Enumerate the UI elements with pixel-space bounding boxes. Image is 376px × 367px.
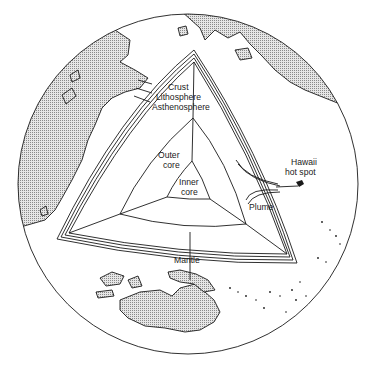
label-plume: Plume [249,202,274,212]
island [235,48,252,60]
label-asthenosphere: Asthenosphere [152,102,210,112]
label-inner-core-1: Inner [179,177,199,187]
label-inner-core-2: core [181,187,198,197]
label-outer-core-2: core [163,160,180,170]
island [178,26,188,36]
island [100,272,124,286]
label-hawaii-1: Hawaii [291,157,317,167]
label-crust: Crust [168,82,189,92]
label-outer-core-1: Outer [158,150,180,160]
label-lithosphere: Lithosphere [156,92,201,102]
label-hawaii-2: hot spot [285,167,316,177]
island [128,276,142,288]
diagram-canvas: Crust Lithosphere Asthenosphere Outer co… [0,0,376,367]
island [96,290,114,298]
label-mantle: Mantle [174,255,200,265]
earth-structure-diagram: Crust Lithosphere Asthenosphere Outer co… [0,0,376,367]
